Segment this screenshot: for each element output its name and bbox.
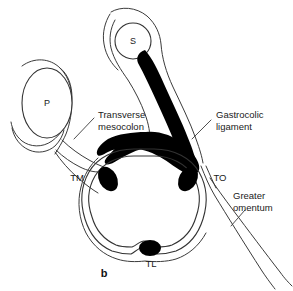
anatomy-diagram-svg: P S xyxy=(0,0,293,291)
label-tl: TL xyxy=(145,258,156,269)
pancreas-structure: P xyxy=(11,60,72,154)
label-to: TO xyxy=(213,172,226,183)
panel-letter: b xyxy=(101,267,108,279)
callout-transverse-mesocolon-line1: Transverse xyxy=(98,109,145,120)
callout-greater-omentum-line1: Greater xyxy=(233,190,265,201)
callout-gastrocolic-ligament-line1: Gastrocolic xyxy=(216,109,264,120)
anatomy-figure-panel-b: P S xyxy=(0,0,293,291)
leader-gastrocolic-ligament xyxy=(192,120,211,139)
callout-gastrocolic-ligament: Gastrocolic ligament xyxy=(216,109,264,132)
greater-omentum-tail xyxy=(201,166,292,289)
callout-transverse-mesocolon-line2: mesocolon xyxy=(98,121,144,132)
callout-greater-omentum-line2: omentum xyxy=(233,202,273,213)
taenia-mesocolica-spot xyxy=(94,163,122,194)
leader-transverse-mesocolon xyxy=(74,118,94,139)
callout-gastrocolic-ligament-line2: ligament xyxy=(216,121,252,132)
label-tm: TM xyxy=(70,172,84,183)
greater-omentum-line-1 xyxy=(201,166,275,289)
taenia-libera-spot xyxy=(139,240,161,256)
stomach-label: S xyxy=(130,36,136,46)
transverse-mesocolon-leaf xyxy=(55,140,104,193)
callout-greater-omentum: Greater omentum xyxy=(233,190,273,213)
callout-transverse-mesocolon: Transverse mesocolon xyxy=(98,109,145,132)
pancreas-label: P xyxy=(44,98,50,108)
